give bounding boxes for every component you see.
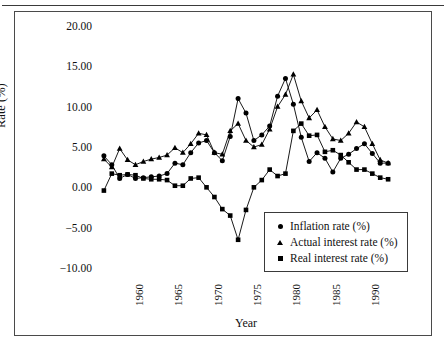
data-point (346, 160, 351, 165)
data-point (117, 146, 123, 151)
data-point (322, 124, 328, 129)
data-point (102, 188, 107, 193)
data-point (354, 146, 359, 151)
legend-item: Inflation rate (%) (272, 218, 398, 234)
y-tick-label: 0.00 (72, 181, 92, 193)
y-tick-label: −10.00 (60, 262, 92, 274)
data-point (244, 111, 249, 116)
legend-item: Real interest rate (%) (272, 250, 398, 266)
data-point (165, 171, 170, 176)
data-point (275, 94, 280, 99)
data-point (283, 91, 289, 96)
series-circle (101, 76, 390, 181)
data-point (235, 121, 241, 126)
data-point (354, 167, 359, 172)
data-point (172, 161, 177, 166)
data-point (314, 107, 320, 112)
legend-label: Actual interest rate (%) (288, 236, 398, 248)
data-point (346, 152, 351, 157)
data-point (196, 175, 201, 180)
data-point (220, 158, 225, 163)
x-tick-label: 1975 (251, 284, 263, 306)
data-point (331, 148, 336, 153)
legend-label: Real interest rate (%) (288, 252, 388, 264)
data-point (125, 172, 130, 177)
x-tick-label: 1970 (212, 284, 224, 306)
data-point (362, 124, 368, 129)
data-point (370, 151, 375, 156)
data-point (181, 183, 186, 188)
series-line (104, 78, 388, 178)
data-point (141, 176, 146, 181)
data-point (338, 153, 343, 158)
data-point (259, 132, 264, 137)
data-point (386, 177, 391, 182)
data-point (298, 98, 304, 103)
data-point (322, 156, 327, 161)
data-point (275, 174, 280, 179)
x-tick-label: 1965 (172, 284, 184, 306)
data-point (290, 71, 296, 76)
x-tick-label: 1985 (330, 284, 342, 306)
data-point (315, 133, 320, 138)
data-point (243, 137, 249, 142)
data-point (157, 177, 162, 182)
y-tick-label: 5.00 (72, 141, 92, 153)
data-point (251, 138, 256, 143)
data-point (283, 76, 288, 81)
data-point (259, 141, 265, 146)
data-point (236, 96, 241, 101)
legend-marker-square-icon (272, 256, 288, 261)
data-point (362, 167, 367, 172)
data-point (117, 173, 122, 178)
data-point (228, 213, 233, 218)
data-point (323, 150, 328, 155)
data-point (291, 102, 296, 107)
data-point (188, 150, 193, 155)
data-point (188, 176, 193, 181)
x-axis-tick-labels: 1960196519701975198019851990 (96, 272, 396, 312)
circle-glyph (278, 224, 283, 229)
data-point (196, 130, 202, 135)
data-point (378, 175, 383, 180)
data-point (377, 157, 383, 162)
data-point (244, 208, 249, 213)
data-point (196, 140, 201, 145)
data-point (149, 177, 154, 182)
data-point (267, 167, 272, 172)
data-point (307, 133, 312, 138)
x-tick-label: 1990 (369, 284, 381, 306)
data-point (212, 195, 217, 200)
data-point (165, 178, 170, 183)
data-point (299, 121, 304, 126)
y-tick-label: 10.00 (66, 101, 92, 113)
data-point (315, 150, 320, 155)
data-point (204, 185, 209, 190)
data-point (362, 141, 367, 146)
data-point (354, 119, 360, 124)
legend-marker-circle-icon (272, 224, 288, 229)
series-line (104, 74, 388, 167)
data-point (283, 171, 288, 176)
data-point (109, 171, 114, 176)
legend-item: Actual interest rate (%) (272, 234, 398, 250)
square-glyph (278, 256, 283, 261)
data-point (173, 183, 178, 188)
data-point (236, 237, 241, 242)
x-axis-title: Year (96, 316, 396, 331)
top-rule (2, 5, 444, 6)
data-point (299, 135, 304, 140)
triangle-glyph (277, 240, 283, 245)
data-point (291, 129, 296, 134)
data-point (180, 162, 185, 167)
y-axis-tick-labels: 20.0015.0010.005.000.00−5.00−10.00 (18, 26, 92, 268)
data-point (369, 141, 375, 146)
y-axis-title: Rate (%) (0, 83, 9, 128)
data-point (252, 185, 257, 190)
y-tick-label: 15.00 (66, 60, 92, 72)
x-tick-label: 1960 (133, 284, 145, 306)
chart-legend: Inflation rate (%)Actual interest rate (… (264, 212, 408, 272)
data-point (172, 145, 178, 150)
x-tick-label: 1980 (290, 284, 302, 306)
legend-marker-triangle-icon (272, 240, 288, 245)
